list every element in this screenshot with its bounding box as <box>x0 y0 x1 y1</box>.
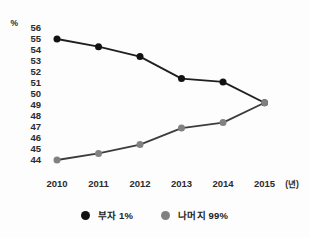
x-axis-tick-label: 2012 <box>129 178 150 189</box>
y-axis-tick-label: 55 <box>30 33 41 44</box>
data-point-series-0 <box>54 36 61 43</box>
data-point-series-1 <box>261 99 268 106</box>
x-axis-tick-label: 2015 <box>254 178 276 189</box>
y-axis-tick-label: 56 <box>30 22 41 33</box>
y-axis-tick-label: 48 <box>30 110 41 121</box>
legend-dot-rest-99pct <box>161 211 170 220</box>
legend-label-rich-1pct: 부자 1% <box>98 208 133 222</box>
y-axis-tick-label: 51 <box>30 77 41 88</box>
x-axis-tick-label: 2014 <box>212 178 234 189</box>
legend-label-rest-99pct: 나머지 99% <box>178 208 228 222</box>
y-axis-tick-label: 52 <box>30 66 41 77</box>
legend-item-rich-1pct: 부자 1% <box>81 208 133 222</box>
y-axis-tick-label: 45 <box>30 143 41 154</box>
wealth-share-line-chart: %565554535251504948474645442010201120122… <box>0 0 309 238</box>
x-axis-unit-label: (년) <box>285 179 299 189</box>
x-axis-tick-label: 2010 <box>46 178 67 189</box>
y-axis-tick-label: 53 <box>30 55 41 66</box>
line-chart-canvas: %565554535251504948474645442010201120122… <box>0 0 309 200</box>
series-line-0 <box>57 39 265 103</box>
y-axis-unit-label: % <box>10 18 18 28</box>
data-point-series-1 <box>137 141 144 148</box>
data-point-series-1 <box>220 119 227 126</box>
y-axis-tick-label: 47 <box>30 121 41 132</box>
data-point-series-0 <box>137 53 144 60</box>
data-point-series-0 <box>220 78 227 85</box>
data-point-series-1 <box>178 125 185 132</box>
y-axis-tick-label: 44 <box>30 154 41 165</box>
series-line-1 <box>57 103 265 160</box>
x-axis-tick-label: 2011 <box>88 178 109 189</box>
y-axis-tick-label: 50 <box>30 88 41 99</box>
x-axis-tick-label: 2013 <box>171 178 192 189</box>
legend-item-rest-99pct: 나머지 99% <box>161 208 228 222</box>
legend-dot-rich-1pct <box>81 211 90 220</box>
y-axis-tick-label: 49 <box>30 99 41 110</box>
y-axis-tick-label: 46 <box>30 132 41 143</box>
data-point-series-0 <box>178 75 185 82</box>
chart-legend: 부자 1% 나머지 99% <box>0 208 309 222</box>
data-point-series-1 <box>54 157 61 164</box>
y-axis-tick-label: 54 <box>30 44 41 55</box>
data-point-series-0 <box>95 43 102 50</box>
data-point-series-1 <box>95 150 102 157</box>
